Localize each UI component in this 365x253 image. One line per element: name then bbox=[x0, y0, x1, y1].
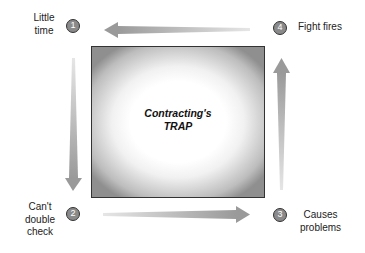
step-3-label: Causes problems bbox=[293, 209, 348, 234]
step-1-badge: 1 bbox=[66, 19, 80, 33]
step-1-label-line2: time bbox=[24, 25, 64, 38]
step-2-label: Can't double check bbox=[20, 201, 60, 239]
step-4-number: 4 bbox=[277, 22, 282, 32]
step-3-label-line1: Causes bbox=[293, 209, 348, 222]
step-1-label-line1: Little bbox=[24, 12, 64, 25]
step-2-label-line1: Can't bbox=[20, 201, 60, 214]
arrow-1-to-2 bbox=[65, 58, 82, 191]
step-3-badge: 3 bbox=[273, 208, 287, 222]
arrow-4-to-1 bbox=[104, 22, 250, 38]
step-3-number: 3 bbox=[277, 209, 282, 219]
arrow-2-to-3 bbox=[103, 206, 250, 223]
step-4-label-line1: Fight fires bbox=[298, 21, 342, 34]
step-2-number: 2 bbox=[70, 208, 75, 218]
step-2-label-line3: check bbox=[20, 226, 60, 239]
step-4-badge: 4 bbox=[273, 21, 287, 35]
step-1-number: 1 bbox=[70, 20, 75, 30]
arrow-3-to-4 bbox=[273, 58, 290, 190]
step-4-label: Fight fires bbox=[298, 21, 342, 34]
step-3-label-line2: problems bbox=[293, 222, 348, 235]
step-1-label: Little time bbox=[24, 12, 64, 37]
step-2-label-line2: double bbox=[20, 214, 60, 227]
step-2-badge: 2 bbox=[66, 207, 80, 221]
